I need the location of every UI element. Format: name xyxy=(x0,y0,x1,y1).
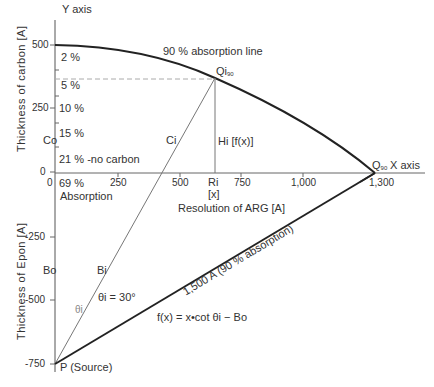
y-tick-500: 500 xyxy=(32,40,49,50)
y-upper-title: Thickness of carbon [A] xyxy=(15,26,27,152)
ri-label: Ri xyxy=(208,177,218,188)
qi-label: Qi90 xyxy=(216,66,234,77)
y-tick-250: 250 xyxy=(32,103,49,113)
y-tick-0: 0 xyxy=(40,167,46,177)
x-tick-750: 750 xyxy=(234,178,251,188)
formula-label: f(x) = x•cot θi − Bo xyxy=(157,312,247,323)
absorption-2: 2 % xyxy=(61,52,80,63)
y-tick-neg750: -750 xyxy=(25,359,45,369)
ci-label: Ci xyxy=(166,135,176,146)
co-label: Co xyxy=(43,135,57,146)
x-tick-1300: 1,300 xyxy=(369,178,394,188)
absorption-69: 69 % xyxy=(59,178,84,189)
ri-x-label: [x] xyxy=(208,189,220,200)
curve-label: 90 % absorption line xyxy=(163,46,263,57)
x-tick-500: 500 xyxy=(172,178,189,188)
x-tick-250: 250 xyxy=(110,178,127,188)
absorption-caption: Absorption xyxy=(60,191,113,202)
absorption-5: 5 % xyxy=(61,80,80,91)
q90-label: Q90 xyxy=(372,160,387,171)
angle-label: θi = 30° xyxy=(98,292,136,303)
y-axis-label: Y axis xyxy=(62,4,92,15)
angle-small-label: θi xyxy=(75,305,83,315)
absorption-21: 21 % -no carbon xyxy=(59,154,140,165)
y-tick-neg250: -250 xyxy=(25,232,45,242)
p-source-label: P (Source) xyxy=(60,362,112,373)
x-tick-1000: 1,000 xyxy=(291,178,316,188)
y-tick-neg500: -500 xyxy=(25,295,45,305)
x-tick-0: 0 xyxy=(47,178,53,188)
bi-label: Bi xyxy=(97,265,107,276)
hi-label: Hi [f(x)] xyxy=(218,136,253,147)
absorption-15: 15 % xyxy=(59,128,84,139)
absorption-10: 10 % xyxy=(59,103,84,114)
x-axis-title: Resolution of ARG [A] xyxy=(178,203,285,214)
x-axis-label: X axis xyxy=(390,160,420,171)
bo-label: Bo xyxy=(43,265,56,276)
